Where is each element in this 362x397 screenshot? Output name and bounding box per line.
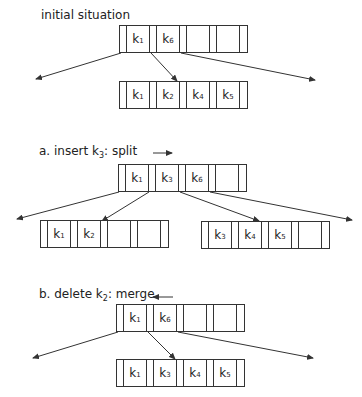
btree-node-leaf: k1k2 xyxy=(40,220,169,248)
pointer-cell xyxy=(207,360,214,386)
section-label-delete: b. delete k2: merge xyxy=(39,287,155,303)
pointer-cell xyxy=(120,26,127,52)
pointer-arrow xyxy=(180,192,259,221)
pointer-cell xyxy=(131,221,138,247)
pointer-cell xyxy=(101,221,108,247)
key-cell: k6 xyxy=(154,305,177,331)
pointer-cell xyxy=(180,82,187,108)
key-cell: k4 xyxy=(187,82,210,108)
pointer-arrow xyxy=(36,53,121,79)
key-cell: k5 xyxy=(214,360,237,386)
empty-key-cell xyxy=(108,221,131,247)
pointer-cell xyxy=(240,26,247,52)
pointer-cell xyxy=(119,165,126,191)
btree-node-root: k1k3k6 xyxy=(118,164,247,192)
pointer-cell xyxy=(322,222,329,248)
pointer-cell xyxy=(177,305,184,331)
pointer-cell xyxy=(161,221,168,247)
key-cell: k1 xyxy=(127,26,150,52)
pointer-arrow xyxy=(33,332,118,358)
empty-key-cell xyxy=(216,165,239,191)
key-cell: k1 xyxy=(127,82,150,108)
pointer-cell xyxy=(147,305,154,331)
pointer-cell xyxy=(210,82,217,108)
key-cell: k1 xyxy=(124,305,147,331)
key-cell: k5 xyxy=(269,222,292,248)
empty-key-cell xyxy=(217,26,240,52)
pointer-cell xyxy=(150,26,157,52)
section-label-insert: a. insert k3: split xyxy=(39,144,137,160)
pointer-cell xyxy=(292,222,299,248)
pointer-arrow xyxy=(151,53,177,81)
pointer-cell xyxy=(177,360,184,386)
pointer-cell xyxy=(209,165,216,191)
empty-key-cell xyxy=(184,305,207,331)
key-cell: k3 xyxy=(209,222,232,248)
pointer-cell xyxy=(232,222,239,248)
btree-node-leaf: k1k3k4k5 xyxy=(116,359,245,387)
key-cell: k6 xyxy=(157,26,180,52)
btree-node-leaf: k3k4k5 xyxy=(201,221,330,249)
key-cell: k3 xyxy=(156,165,179,191)
btree-node-leaf: k1k2k4k5 xyxy=(119,81,248,109)
pointer-arrow xyxy=(148,332,175,359)
section-label-initial: initial situation xyxy=(41,8,130,22)
key-cell: k1 xyxy=(48,221,71,247)
key-cell: k4 xyxy=(239,222,262,248)
pointer-cell xyxy=(147,360,154,386)
pointer-cell xyxy=(120,82,127,108)
empty-key-cell xyxy=(187,26,210,52)
empty-key-cell xyxy=(214,305,237,331)
pointer-cell xyxy=(71,221,78,247)
empty-key-cell xyxy=(299,222,322,248)
pointer-cell xyxy=(210,26,217,52)
pointer-cell xyxy=(237,305,244,331)
key-cell: k1 xyxy=(124,360,147,386)
key-cell: k3 xyxy=(154,360,177,386)
pointer-cell xyxy=(150,82,157,108)
key-cell: k6 xyxy=(186,165,209,191)
pointer-cell xyxy=(179,165,186,191)
pointer-arrow xyxy=(181,53,315,80)
diagram-arrows xyxy=(0,0,362,397)
pointer-cell xyxy=(239,165,246,191)
key-cell: k4 xyxy=(184,360,207,386)
pointer-cell xyxy=(237,360,244,386)
key-cell: k5 xyxy=(217,82,240,108)
pointer-cell xyxy=(262,222,269,248)
pointer-cell xyxy=(149,165,156,191)
pointer-cell xyxy=(207,305,214,331)
empty-key-cell xyxy=(138,221,161,247)
pointer-cell xyxy=(180,26,187,52)
btree-node-root: k1k6 xyxy=(116,304,245,332)
pointer-cell xyxy=(117,305,124,331)
pointer-cell xyxy=(240,82,247,108)
key-cell: k1 xyxy=(126,165,149,191)
pointer-arrow xyxy=(178,332,313,358)
key-cell: k2 xyxy=(78,221,101,247)
pointer-cell xyxy=(117,360,124,386)
pointer-cell xyxy=(41,221,48,247)
key-cell: k2 xyxy=(157,82,180,108)
btree-node-root: k1k6 xyxy=(119,25,248,53)
pointer-arrow xyxy=(210,192,352,220)
pointer-arrow xyxy=(102,192,149,221)
pointer-arrow xyxy=(17,192,119,219)
pointer-cell xyxy=(202,222,209,248)
